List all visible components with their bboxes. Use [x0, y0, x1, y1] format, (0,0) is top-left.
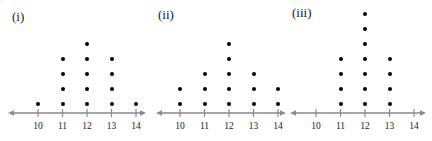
data-dot	[227, 87, 231, 91]
data-dot	[388, 102, 392, 106]
data-dot	[252, 102, 256, 106]
data-dot	[363, 87, 367, 91]
data-dot	[276, 102, 280, 106]
data-dot	[203, 102, 207, 106]
axis-arrow-left	[156, 110, 162, 116]
data-dot	[363, 102, 367, 106]
x-tick-label: 14	[273, 122, 283, 132]
data-dot	[363, 72, 367, 76]
x-tick-label: 10	[175, 122, 185, 132]
data-dot	[85, 42, 89, 46]
data-dot	[227, 42, 231, 46]
data-dot	[339, 72, 343, 76]
data-dot	[85, 57, 89, 61]
axis-arrow-left	[290, 110, 296, 116]
data-dot	[363, 12, 367, 16]
data-dot	[388, 87, 392, 91]
data-dot	[339, 102, 343, 106]
x-tick-label: 12	[224, 122, 234, 132]
x-tick-label: 11	[336, 122, 345, 132]
data-dot	[203, 87, 207, 91]
x-tick-label: 10	[311, 122, 321, 132]
data-dot	[85, 87, 89, 91]
data-dot	[85, 102, 89, 106]
data-dot	[61, 72, 65, 76]
data-dot	[388, 57, 392, 61]
data-dot	[227, 72, 231, 76]
data-dot	[61, 87, 65, 91]
data-dot	[252, 72, 256, 76]
x-tick-label: 12	[82, 122, 92, 132]
dot-plot-3: (iii)1011121314	[286, 0, 432, 141]
data-dot	[61, 102, 65, 106]
data-dot	[110, 102, 114, 106]
data-dot	[363, 42, 367, 46]
x-tick-label: 13	[107, 122, 117, 132]
data-dot	[227, 102, 231, 106]
x-tick-label: 14	[131, 122, 141, 132]
data-dot	[110, 87, 114, 91]
x-tick-label: 13	[385, 122, 395, 132]
data-dot	[178, 102, 182, 106]
dot-plot-figure: (i)1011121314(ii)1011121314(iii)10111213…	[0, 0, 432, 141]
data-dot	[276, 87, 280, 91]
x-axis	[148, 0, 288, 141]
data-dot	[339, 57, 343, 61]
dot-plot-1: (i)1011121314	[0, 0, 150, 141]
data-dot	[85, 72, 89, 76]
x-tick-label: 11	[58, 122, 67, 132]
data-dot	[178, 87, 182, 91]
data-dot	[61, 57, 65, 61]
axis-arrow-right	[420, 110, 426, 116]
data-dot	[363, 27, 367, 31]
x-tick-label: 12	[360, 122, 370, 132]
data-dot	[363, 57, 367, 61]
data-dot	[388, 72, 392, 76]
x-tick-label: 13	[249, 122, 259, 132]
data-dot	[227, 57, 231, 61]
data-dot	[134, 102, 138, 106]
dot-plot-2: (ii)1011121314	[148, 0, 288, 141]
x-axis	[286, 0, 432, 141]
data-dot	[36, 102, 40, 106]
axis-arrow-right	[140, 110, 146, 116]
axis-arrow-left	[8, 110, 14, 116]
data-dot	[110, 57, 114, 61]
x-tick-label: 14	[409, 122, 419, 132]
data-dot	[252, 87, 256, 91]
x-axis	[0, 0, 150, 141]
data-dot	[203, 72, 207, 76]
data-dot	[110, 72, 114, 76]
x-tick-label: 11	[200, 122, 209, 132]
x-tick-label: 10	[33, 122, 43, 132]
data-dot	[339, 87, 343, 91]
